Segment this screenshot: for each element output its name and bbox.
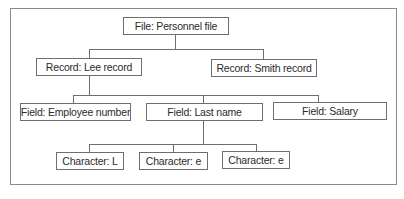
node-character-e1: Character: e (139, 152, 208, 170)
connector (173, 144, 174, 152)
node-record-smith: Record: Smith record (211, 59, 317, 77)
connector (89, 49, 90, 58)
connector (256, 144, 257, 151)
node-field-employee-number: Field: Employee number (20, 103, 131, 121)
connector (263, 49, 264, 59)
connector (175, 34, 176, 49)
node-character-l: Character: L (56, 152, 124, 170)
node-record-lee: Record: Lee record (36, 58, 142, 76)
connector (203, 95, 204, 103)
node-field-last-name: Field: Last name (146, 103, 263, 121)
connector (89, 75, 90, 95)
connector (73, 95, 74, 103)
connector (203, 120, 204, 144)
connector (89, 144, 90, 152)
node-file-personnel: File: Personnel file (123, 17, 229, 35)
node-field-salary: Field: Salary (273, 102, 387, 120)
connector (89, 49, 264, 50)
node-character-e2: Character: e (222, 151, 290, 169)
connector (73, 95, 319, 96)
